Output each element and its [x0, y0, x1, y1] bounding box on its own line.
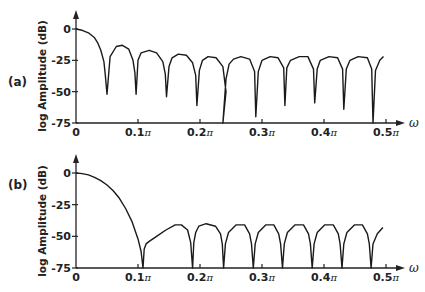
- panel-label-b: (b): [8, 178, 28, 192]
- y-tick-label: 0: [63, 23, 71, 36]
- panel-label-a: (a): [8, 75, 27, 89]
- x-tick-label: 0.5π: [373, 271, 400, 284]
- chart-panel-b: (b) log Amplitude (dB) 0-25-50-75 00.1π0…: [8, 154, 419, 284]
- x-tick-label: 0.1π: [125, 271, 152, 284]
- y-ticks-b: 0-25-50-75: [51, 167, 78, 275]
- chart-panel-a: (a) log Amplitude (dB) 0-25-50-75 00.1π0…: [8, 10, 419, 139]
- y-axis-arrow-a: [73, 10, 79, 19]
- x-axis-label-b: ω: [409, 261, 419, 275]
- x-tick-label: 0.5π: [373, 126, 400, 139]
- y-ticks-a: 0-25-50-75: [51, 23, 78, 130]
- x-tick-label: 0.2π: [187, 126, 214, 139]
- y-tick-label: 0: [63, 167, 71, 180]
- x-tick-label: 0.4π: [311, 271, 338, 284]
- y-tick-label: -25: [51, 199, 71, 212]
- y-axis-arrow-b: [73, 154, 79, 163]
- x-tick-label: 0.4π: [311, 126, 338, 139]
- y-axis-label-b: log Amplitude (dB): [36, 165, 48, 277]
- data-line-a: [76, 29, 384, 123]
- y-tick-label: -25: [51, 54, 71, 67]
- figure: (a) log Amplitude (dB) 0-25-50-75 00.1π0…: [0, 0, 425, 292]
- x-tick-label: 0.2π: [187, 271, 214, 284]
- y-tick-label: -50: [51, 230, 71, 243]
- x-tick-label: 0: [72, 126, 80, 139]
- x-tick-label: 0.3π: [249, 126, 276, 139]
- data-line-b: [76, 173, 383, 268]
- x-tick-label: 0.1π: [125, 126, 152, 139]
- y-tick-label: -50: [51, 86, 71, 99]
- x-tick-label: 0.3π: [249, 271, 276, 284]
- x-axis-arrow-b: [396, 265, 405, 271]
- y-tick-label: -75: [51, 262, 71, 275]
- x-axis-arrow-a: [396, 120, 405, 126]
- x-ticks-b: 00.1π0.2π0.3π0.4π0.5π: [72, 264, 399, 284]
- x-ticks-a: 00.1π0.2π0.3π0.4π0.5π: [72, 119, 399, 139]
- x-tick-label: 0: [72, 271, 80, 284]
- y-tick-label: -75: [51, 117, 71, 130]
- y-axis-label-a: log Amplitude (dB): [36, 20, 48, 132]
- x-axis-label-a: ω: [409, 116, 419, 130]
